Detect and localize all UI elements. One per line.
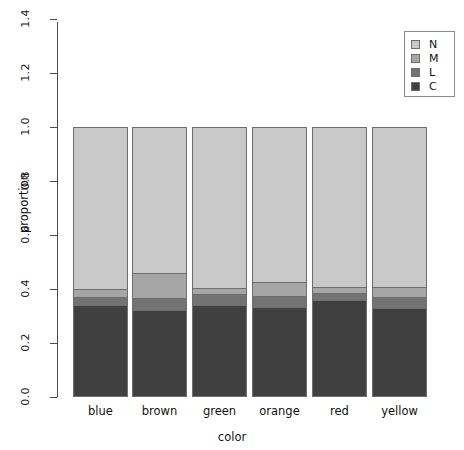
y-axis-tick-label: 1.4 <box>19 0 32 39</box>
stacked-bar-chart: 0.00.20.40.60.81.01.21.4 proportion blue… <box>0 0 464 450</box>
bar-segment-red-C[interactable] <box>312 300 367 397</box>
y-axis-tick <box>50 343 57 344</box>
bar-segment-yellow-C[interactable] <box>372 308 427 397</box>
bar-segment-orange-L[interactable] <box>252 296 307 307</box>
legend-label-M: M <box>429 53 439 64</box>
bar-brown[interactable] <box>132 127 187 397</box>
bar-segment-green-C[interactable] <box>192 305 247 397</box>
x-axis-tick-label-yellow: yellow <box>372 404 427 418</box>
y-axis-line <box>57 22 58 397</box>
legend-label-C: C <box>429 81 437 92</box>
legend-label-L: L <box>429 67 435 78</box>
x-axis-tick-label-brown: brown <box>132 404 187 418</box>
legend: NMLC <box>404 31 455 97</box>
x-axis-tick-label-green: green <box>192 404 247 418</box>
bar-orange[interactable] <box>252 127 307 397</box>
legend-label-N: N <box>429 39 437 50</box>
bar-segment-brown-N[interactable] <box>132 127 187 273</box>
x-axis-tick-label-blue: blue <box>73 404 128 418</box>
y-axis-tick-label: 0.4 <box>19 269 32 309</box>
legend-item-M[interactable]: M <box>411 51 454 65</box>
y-axis-tick-label: 1.2 <box>19 53 32 93</box>
bar-segment-orange-C[interactable] <box>252 307 307 397</box>
legend-item-L[interactable]: L <box>411 65 454 79</box>
bar-yellow[interactable] <box>372 127 427 397</box>
bar-segment-blue-M[interactable] <box>73 289 128 297</box>
legend-swatch-M <box>411 54 420 63</box>
bar-segment-green-N[interactable] <box>192 127 247 288</box>
bar-segment-brown-M[interactable] <box>132 273 187 298</box>
y-axis-tick-label: 0.2 <box>19 323 32 363</box>
bar-segment-red-N[interactable] <box>312 127 367 287</box>
y-axis-tick <box>50 397 57 398</box>
bar-segment-yellow-L[interactable] <box>372 297 427 308</box>
y-axis-tick <box>50 73 57 74</box>
x-axis-tick-label-orange: orange <box>252 404 307 418</box>
legend-swatch-L <box>411 68 420 77</box>
x-axis-label: color <box>0 430 464 444</box>
bar-segment-brown-C[interactable] <box>132 310 187 397</box>
y-axis-label: proportion <box>17 158 31 248</box>
y-axis-tick <box>50 127 57 128</box>
bar-red[interactable] <box>312 127 367 397</box>
bar-segment-blue-N[interactable] <box>73 127 128 289</box>
bar-blue[interactable] <box>73 127 128 397</box>
bar-segment-green-M[interactable] <box>192 288 247 294</box>
bar-segment-blue-C[interactable] <box>73 305 128 397</box>
legend-item-N[interactable]: N <box>411 37 454 51</box>
bar-segment-green-L[interactable] <box>192 294 247 305</box>
bar-segment-blue-L[interactable] <box>73 297 128 305</box>
bar-segment-orange-M[interactable] <box>252 282 307 296</box>
bar-segment-brown-L[interactable] <box>132 298 187 310</box>
bar-segment-yellow-N[interactable] <box>372 127 427 287</box>
legend-item-C[interactable]: C <box>411 79 454 93</box>
bar-segment-yellow-M[interactable] <box>372 287 427 297</box>
y-axis-tick <box>50 181 57 182</box>
y-axis-tick <box>50 235 57 236</box>
bar-green[interactable] <box>192 127 247 397</box>
legend-swatch-C <box>411 82 420 91</box>
bar-segment-red-M[interactable] <box>312 287 367 293</box>
x-axis-tick-label-red: red <box>312 404 367 418</box>
y-axis-tick-label: 1.0 <box>19 107 32 147</box>
y-axis-tick <box>50 19 57 20</box>
y-axis-tick-label: 0.0 <box>19 377 32 417</box>
legend-swatch-N <box>411 40 420 49</box>
bar-segment-orange-N[interactable] <box>252 127 307 282</box>
bar-segment-red-L[interactable] <box>312 293 367 300</box>
y-axis-tick <box>50 289 57 290</box>
